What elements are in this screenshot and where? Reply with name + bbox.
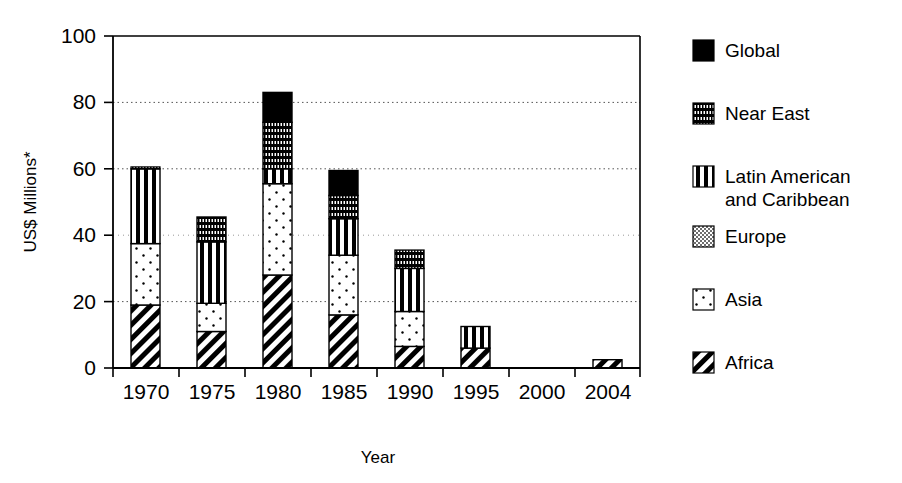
bar-group-1995[interactable] [461, 327, 490, 369]
bar-segment-1990-asia[interactable] [395, 312, 424, 347]
x-axis-title: Year [361, 448, 396, 467]
legend-label-asia: Asia [725, 289, 762, 310]
bar-group-1975[interactable] [197, 217, 226, 368]
bar-segment-1970-latin-american-and-caribbean[interactable] [131, 169, 160, 244]
bar-segment-1975-asia[interactable] [197, 303, 226, 331]
bar-segment-1990-africa[interactable] [395, 346, 424, 368]
bar-group-1990[interactable] [395, 250, 424, 368]
x-tick-label-2004: 2004 [585, 380, 632, 403]
x-tick-label-1995: 1995 [453, 380, 500, 403]
y-axis-title: US$ Millions* [21, 151, 40, 252]
legend-swatch-near-east [693, 103, 714, 124]
x-tick-label-1980: 1980 [255, 380, 302, 403]
x-tick-label-1985: 1985 [321, 380, 368, 403]
legend-swatch-europe [693, 226, 714, 247]
bar-segment-1980-africa[interactable] [263, 275, 292, 368]
bar-segment-1980-asia[interactable] [263, 184, 292, 275]
bar-segment-1985-latin-american-and-caribbean[interactable] [329, 219, 358, 256]
bar-segment-1985-africa[interactable] [329, 315, 358, 368]
legend-swatch-asia [693, 289, 714, 310]
bar-segment-1985-asia[interactable] [329, 255, 358, 315]
y-axis-ticks [104, 36, 113, 368]
y-tick-label-0: 0 [84, 356, 96, 379]
stacked-bar-chart: 100 80 60 40 20 0 1970 1975 1980 1985 19… [0, 0, 902, 483]
legend-item-global[interactable]: Global [693, 40, 780, 61]
legend-item-asia[interactable]: Asia [693, 289, 762, 310]
bar-segment-1985-near-east[interactable] [329, 196, 358, 219]
bar-segment-1980-near-east[interactable] [263, 122, 292, 169]
x-tick-label-1970: 1970 [123, 380, 170, 403]
legend-swatch-latin-american-and-caribbean [693, 166, 714, 187]
bar-segment-1975-near-east[interactable] [197, 217, 226, 242]
x-tick-label-1975: 1975 [189, 380, 236, 403]
legend-item-europe[interactable]: Europe [693, 226, 786, 247]
legend-swatch-global [693, 40, 714, 61]
bar-segment-1990-near-east[interactable] [395, 250, 424, 268]
legend-item-latin-american-and-caribbean[interactable]: Latin American and Caribbean [693, 166, 851, 210]
legend-label-near-east: Near East [725, 103, 810, 124]
y-tick-label-100: 100 [61, 24, 96, 47]
legend-label-europe: Europe [725, 226, 786, 247]
bar-segment-1975-africa[interactable] [197, 332, 226, 369]
bar-segment-1980-latin-american-and-caribbean[interactable] [263, 169, 292, 184]
y-tick-label-40: 40 [73, 223, 96, 246]
bar-group-1985[interactable] [329, 171, 358, 369]
legend-swatch-africa [693, 352, 714, 373]
bar-group-1980[interactable] [263, 92, 292, 368]
bar-segment-2004-africa[interactable] [593, 360, 622, 368]
legend-label-africa: Africa [725, 352, 774, 373]
y-tick-label-20: 20 [73, 290, 96, 313]
bar-segment-1990-latin-american-and-caribbean[interactable] [395, 268, 424, 311]
legend-label-and-caribbean: and Caribbean [725, 189, 850, 210]
bar-segment-1980-global[interactable] [263, 92, 292, 122]
bar-segment-1970-near-east[interactable] [131, 167, 160, 169]
bar-segment-1995-africa[interactable] [461, 348, 490, 368]
chart-container: 100 80 60 40 20 0 1970 1975 1980 1985 19… [0, 0, 902, 483]
legend: Global Near East Latin American and Cari… [693, 40, 851, 373]
legend-label-latin-american: Latin American [725, 166, 851, 187]
y-tick-label-60: 60 [73, 157, 96, 180]
legend-item-africa[interactable]: Africa [693, 352, 774, 373]
bar-segment-1975-latin-american-and-caribbean[interactable] [197, 242, 226, 303]
bar-segment-1970-africa[interactable] [131, 305, 160, 368]
bar-segment-1970-asia[interactable] [131, 244, 160, 305]
bar-group-2004[interactable] [593, 360, 622, 368]
plot-area [113, 36, 640, 368]
x-axis-ticks [113, 368, 640, 377]
legend-label-global: Global [725, 40, 780, 61]
x-tick-label-2000: 2000 [519, 380, 566, 403]
bar-segment-1995-latin-american-and-caribbean[interactable] [461, 327, 490, 349]
y-tick-label-80: 80 [73, 90, 96, 113]
x-tick-label-1990: 1990 [387, 380, 434, 403]
bar-group-1970[interactable] [131, 167, 160, 368]
legend-item-near-east[interactable]: Near East [693, 103, 810, 124]
bar-segment-1985-global[interactable] [329, 171, 358, 196]
